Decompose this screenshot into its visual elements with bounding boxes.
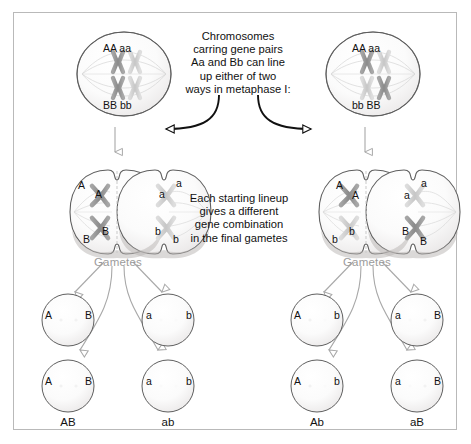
label-mid-left-a2: a	[176, 178, 182, 188]
label-mid-right-A2: A	[352, 190, 359, 200]
gamete-aB-lower-left-allele: a	[395, 376, 401, 386]
label-top-right-lower: bb BB	[352, 100, 381, 110]
label-mid-left-B2: B	[102, 226, 109, 236]
gamete-ab-lower-left-allele: a	[146, 376, 152, 386]
label-mid-left-A2: A	[95, 189, 102, 199]
gamete-genotype-AB: AB	[48, 416, 88, 428]
gamete-genotype-ab: ab	[148, 416, 188, 428]
gamete-AB-lower-right-allele: B	[85, 376, 92, 386]
label-mid-right-a1: a	[404, 190, 410, 200]
label-mid-right-a2: a	[421, 178, 427, 188]
gamete-genotype-aB: aB	[397, 416, 437, 428]
label-top-left-lower: BB bb	[103, 100, 132, 110]
caption-metaphase: Chromosomes carring gene pairs Aa and Bb…	[176, 30, 300, 96]
gamete-Ab-lower-right-allele: b	[334, 376, 340, 386]
gamete-ab-upper-left-allele: a	[146, 310, 152, 320]
gamete-Ab-upper-left-allele: A	[294, 310, 301, 320]
gametes-label-right: Gametes	[337, 256, 397, 268]
caption-lineup: Each starting lineup gives a different g…	[173, 192, 305, 245]
gamete-AB-upper-right-allele: B	[85, 310, 92, 320]
gamete-aB-upper-left-allele: a	[395, 310, 401, 320]
label-top-right-upper: AA aa	[352, 43, 380, 53]
gamete-ab-upper-right-allele: b	[186, 310, 192, 320]
label-mid-right-B1: B	[402, 226, 409, 236]
label-mid-left-b2: b	[173, 234, 179, 244]
gamete-aB-lower-right-allele: B	[434, 376, 441, 386]
gamete-AB-upper-left-allele: A	[45, 310, 52, 320]
label-top-left-upper: AA aa	[103, 43, 131, 53]
label-mid-left-A1: A	[78, 180, 85, 190]
gamete-aB-upper-right-allele: B	[434, 310, 441, 320]
label-mid-left-a1: a	[159, 189, 165, 199]
label-mid-right-b2: b	[349, 226, 355, 236]
gamete-Ab-lower-left-allele: A	[294, 376, 301, 386]
gamete-Ab-upper-right-allele: b	[334, 310, 340, 320]
label-mid-left-b1: b	[155, 226, 161, 236]
label-mid-right-B2: B	[420, 236, 427, 246]
gamete-AB-lower-left-allele: A	[45, 376, 52, 386]
label-mid-left-B1: B	[83, 234, 90, 244]
gamete-genotype-Ab: Ab	[297, 416, 337, 428]
label-mid-right-b1: b	[332, 234, 338, 244]
gametes-label-left: Gametes	[88, 256, 148, 268]
gamete-ab-lower-right-allele: b	[186, 376, 192, 386]
label-mid-right-A1: A	[336, 180, 343, 190]
